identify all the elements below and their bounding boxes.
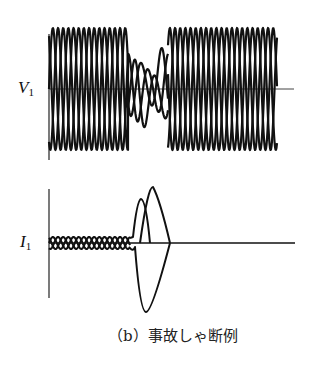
current-fault-pulse-2: [140, 187, 170, 243]
figure-caption: （b）事故しゃ断例: [108, 324, 278, 345]
waveform-diagram: [0, 0, 315, 368]
voltage-label: V1: [18, 78, 34, 98]
current-fault-pulse-3: [130, 243, 170, 312]
current-waveforms: [49, 187, 170, 312]
current-label: I1: [20, 232, 31, 252]
voltage-waveforms: [49, 28, 277, 150]
